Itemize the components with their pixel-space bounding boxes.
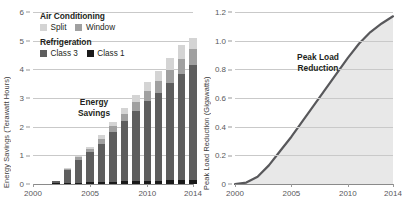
bar-segment-class-1 [75,183,82,184]
bar-segment-split [86,147,93,149]
x-tick-label: 2010 [138,189,156,198]
bar-segment-class-1 [52,183,59,184]
right-axis-title: Peak Load Reduction (Gigawatts) [202,30,211,190]
bar-segment-window [178,59,185,73]
legend-heading-refrigeration: Refrigeration [40,37,134,47]
y-tick-label: 1.0 [208,36,232,45]
bar-segment-class-3 [155,93,162,180]
left-annotation-line1: Energy [62,97,126,108]
bar [132,95,139,184]
y-tick-label: 6 [14,8,30,17]
gridline [235,12,393,13]
bar-segment-split [132,95,139,102]
bar [166,58,173,184]
right-plot-area [235,12,393,184]
bar-segment-class-3 [121,121,128,181]
left-legend: Air Conditioning Split Window Refrigerat… [40,11,134,58]
y-tick-label: 3 [14,94,30,103]
legend-swatch-class3 [40,50,47,57]
x-tick-mark [393,184,394,187]
bar-segment-class-3 [132,111,139,181]
bar-segment-window [166,70,173,83]
gridline [235,155,393,156]
bar-segment-class-3 [98,144,105,182]
y-tick-label: 0.6 [208,94,232,103]
y-tick-label: 2 [14,122,30,131]
bar [75,156,82,184]
bar-segment-window [132,102,139,111]
y-tick-label: 5 [14,36,30,45]
legend-swatch-split [40,24,47,31]
x-tick-mark [90,184,91,187]
bar-segment-window [98,139,105,144]
x-tick-label: 2005 [283,189,301,198]
x-tick-label: 2005 [81,189,99,198]
bar-segment-window [155,81,162,93]
bar-segment-split [189,38,196,49]
bar-segment-class-1 [109,182,116,184]
bar-segment-class-1 [155,181,162,184]
bar-segment-class-3 [144,101,151,181]
bar-segment-class-1 [98,182,105,184]
x-tick-label: 2000 [24,189,42,198]
x-tick-mark [193,184,194,187]
bar [86,147,93,184]
bar-segment-split [64,168,71,169]
bar-segment-split [98,135,105,138]
bar-segment-window [109,126,116,132]
peak-load-reduction-chart: Peak Load Reduction (Gigawatts) 00.20.40… [200,0,400,219]
bar-segment-class-1 [121,181,128,184]
x-tick-label: 2014 [384,189,402,198]
x-tick-mark [348,184,349,187]
x-tick-mark [235,184,236,187]
right-annotation: Peak Load Reduction [282,52,354,73]
left-axis-title: Energy Savings (Terawatt Hours) [2,38,11,188]
legend-label-window: Window [86,23,115,32]
bar-segment-split [109,122,116,127]
x-tick-label: 2000 [226,189,244,198]
y-tick-label: 0 [14,180,30,189]
bar-segment-class-3 [178,74,185,180]
bar-segment-split [178,45,185,59]
bar-segment-class-3 [64,170,71,183]
axis-baseline [33,184,193,185]
y-tick-label: 0 [208,180,232,189]
left-annotation: Energy Savings [62,97,126,118]
bar-segment-class-3 [86,152,93,182]
bar [144,82,151,184]
y-tick-label: 0.2 [208,151,232,160]
y-tick-label: 0.4 [208,122,232,131]
legend-item-class1: Class 1 [87,49,125,58]
bar [64,168,71,184]
bar-segment-class-3 [52,181,59,184]
energy-savings-chart: Energy Savings (Terawatt Hours) 0123456 … [0,0,200,219]
legend-swatch-window [75,24,82,31]
y-tick-label: 0.8 [208,65,232,74]
x-tick-mark [33,184,34,187]
legend-label-class3: Class 3 [51,49,78,58]
y-tick-label: 4 [14,65,30,74]
legend-item-class3: Class 3 [40,49,78,58]
bar-segment-split [166,58,173,70]
right-annotation-line1: Peak Load [282,52,354,63]
x-tick-mark [291,184,292,187]
bar [98,135,105,184]
gridline [235,98,393,99]
bar-segment-window [86,149,93,152]
bar [155,71,162,184]
bar-segment-class-3 [75,160,82,183]
bar-segment-split [75,156,82,157]
y-tick-label: 1 [14,151,30,160]
gridline [235,127,393,128]
bar-segment-class-3 [166,83,173,180]
right-annotation-line2: Reduction [282,63,354,74]
x-tick-mark [147,184,148,187]
bar [121,108,128,184]
gridline [235,41,393,42]
bar-segment-class-1 [64,183,71,184]
bar-segment-window [64,169,71,170]
bar [109,122,116,184]
bar-segment-split [144,82,151,91]
bar-segment-class-1 [166,180,173,184]
